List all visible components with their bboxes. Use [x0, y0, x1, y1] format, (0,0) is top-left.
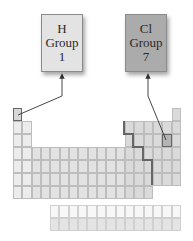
group-label: Group [126, 36, 166, 50]
hydrogen-arrow [18, 76, 62, 115]
chlorine-callout-box: Cl Group 7 [125, 14, 167, 72]
chlorine-arrow [148, 76, 166, 140]
element-symbol: Cl [126, 22, 166, 36]
metal-nonmetal-divider [124, 121, 152, 185]
group-number: 7 [126, 50, 166, 64]
element-symbol: H [42, 22, 82, 36]
group-number: 1 [42, 50, 82, 64]
group-label: Group [42, 36, 82, 50]
hydrogen-callout-box: H Group 1 [41, 14, 83, 72]
